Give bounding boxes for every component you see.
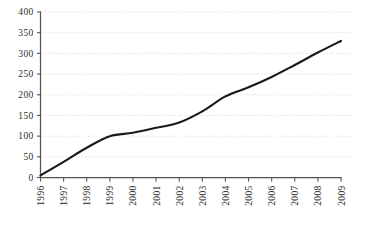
x-tick-label: 2008 — [313, 186, 323, 206]
x-tick-label: 2006 — [267, 186, 277, 206]
y-tick-label: 200 — [18, 90, 33, 100]
x-tick-label: 1999 — [105, 186, 115, 206]
x-tick-label: 2002 — [175, 186, 185, 206]
data-series-line — [41, 41, 342, 175]
line-chart: 050100150200250300350400 199619971998199… — [0, 0, 367, 230]
y-tick-label: 400 — [18, 7, 33, 17]
gridlines-group — [42, 12, 356, 157]
x-tick-label: 2005 — [244, 186, 254, 206]
x-tick-label: 2004 — [221, 186, 231, 206]
chart-figure: 050100150200250300350400 199619971998199… — [0, 0, 367, 230]
y-tick-label: 350 — [18, 28, 33, 38]
figure-caption — [6, 221, 364, 230]
x-tick-label: 2001 — [152, 186, 162, 206]
y-tick-label: 250 — [18, 69, 33, 79]
x-tick-labels-group: 1996199719981999200020012002200320042005… — [36, 186, 347, 206]
y-tick-label: 300 — [18, 49, 33, 59]
x-tick-label: 1996 — [36, 186, 46, 206]
y-tick-label: 150 — [18, 111, 33, 121]
y-tick-label: 100 — [18, 131, 33, 141]
x-tick-label: 1998 — [82, 186, 92, 206]
y-tick-labels-group: 050100150200250300350400 — [18, 7, 33, 183]
x-tick-label: 2007 — [290, 186, 300, 206]
y-tick-label: 50 — [23, 152, 33, 162]
y-tick-label: 0 — [28, 173, 33, 183]
x-tick-label: 1997 — [59, 186, 69, 206]
x-tick-label: 2003 — [198, 186, 208, 206]
x-tick-label: 2000 — [128, 186, 138, 206]
x-tick-label: 2009 — [337, 186, 347, 206]
